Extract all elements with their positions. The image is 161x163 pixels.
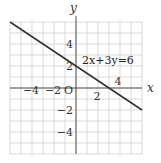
origin-label: O bbox=[64, 84, 73, 97]
y-tick-label: −4 bbox=[57, 126, 73, 139]
y-axis-label: y bbox=[69, 1, 77, 15]
coordinate-plane: −4−22442−2−4 y x O 2x+3y=6 bbox=[0, 0, 161, 163]
x-tick-label: 4 bbox=[115, 75, 122, 88]
x-axis-label: x bbox=[147, 81, 154, 95]
x-tick-label: 2 bbox=[94, 90, 101, 103]
equation-label: 2x+3y=6 bbox=[82, 54, 134, 67]
y-tick-label: 2 bbox=[66, 60, 73, 73]
x-tick-label: −2 bbox=[45, 84, 61, 97]
y-tick-label: −2 bbox=[57, 104, 73, 117]
x-tick-label: −4 bbox=[23, 84, 39, 97]
y-tick-label: 4 bbox=[66, 38, 73, 51]
